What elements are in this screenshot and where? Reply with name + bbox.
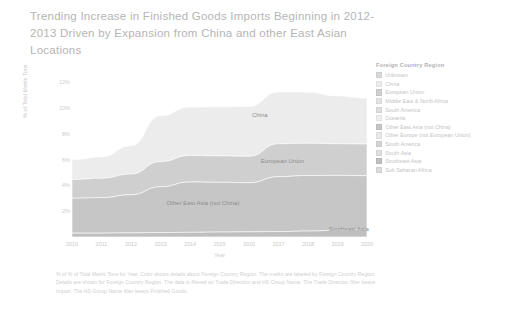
y-axis-tick-labels: 12%10%8%6%4%2% [44,82,70,237]
legend: Foreign Country Region UnknownChinaEurop… [376,62,512,174]
x-tick-label: 2011 [96,241,108,247]
legend-item-label: South Asia [385,150,411,156]
legend-swatch-icon [376,158,382,164]
x-tick-label: 2017 [272,241,284,247]
legend-swatch-icon [376,132,382,138]
y-tick-label: 12% [59,79,70,85]
legend-item-label: Middle East & North Africa [385,98,448,104]
legend-item[interactable]: European Union [376,88,512,97]
plot-area: ChinaEuropean UnionOther East Asia (not … [72,82,367,237]
y-tick-label: 2% [62,208,70,214]
y-axis-title: % of Total Metric Tons [22,64,28,118]
legend-item-label: Oceania [385,115,405,121]
x-tick-label: 2018 [302,241,314,247]
legend-item[interactable]: Middle East & North Africa [376,97,512,106]
chart-page: Trending Increase in Finished Goods Impo… [0,0,517,331]
x-axis-tick-labels: 2010201120122013201420152016201720182019… [72,241,367,251]
legend-item[interactable]: South America [376,105,512,114]
x-tick-label: 2010 [66,241,78,247]
legend-swatch-icon [376,89,382,95]
legend-item-label: South America [385,107,420,113]
legend-swatch-icon [376,98,382,104]
legend-title: Foreign Country Region [376,62,512,68]
legend-item-label: European Union [385,89,424,95]
x-tick-label: 2014 [184,241,196,247]
legend-item-list: UnknownChinaEuropean UnionMiddle East & … [376,71,512,174]
legend-item[interactable]: Oceania [376,114,512,123]
footer-caption: % of % of Total Metric Tons for Year. Co… [56,270,386,295]
legend-swatch-icon [376,141,382,147]
x-tick-label: 2020 [361,241,373,247]
area-label-other-east-asia-not-china: Other East Asia (not China) [166,200,239,206]
page-title: Trending Increase in Finished Goods Impo… [30,8,390,59]
y-tick-label: 8% [62,131,70,137]
x-tick-label: 2015 [213,241,225,247]
x-tick-label: 2013 [154,241,166,247]
legend-item[interactable]: Other Europe (not European Union) [376,131,512,140]
legend-item[interactable]: Sub Saharan Africa [376,166,512,175]
legend-item[interactable]: Unknown [376,71,512,80]
x-tick-label: 2012 [125,241,137,247]
legend-swatch-icon [376,167,382,173]
legend-item-label: Other Europe (not European Union) [385,132,470,138]
legend-swatch-icon [376,115,382,121]
legend-item[interactable]: Southeast Asia [376,157,512,166]
y-tick-label: 10% [59,105,70,111]
y-tick-label: 4% [62,182,70,188]
legend-swatch-icon [376,150,382,156]
x-axis-title: Year [72,252,367,258]
legend-item-label: Sub Saharan Africa [385,167,431,173]
area-label-china: China [252,112,268,118]
legend-swatch-icon [376,107,382,113]
legend-item-label: Southeast Asia [385,158,421,164]
legend-item-label: China [385,81,399,87]
stacked-area-chart [72,82,367,237]
area-label-southeast-asia: Southeast Asia [329,226,369,232]
legend-item-label: Unknown [385,72,407,78]
x-tick-label: 2019 [331,241,343,247]
legend-swatch-icon [376,72,382,78]
legend-item-label: Other East Asia (not China) [385,124,451,130]
legend-item[interactable]: China [376,80,512,89]
legend-item[interactable]: South Asia [376,148,512,157]
legend-item[interactable]: South America [376,140,512,149]
area-label-european-union: European Union [261,158,304,164]
x-tick-label: 2016 [243,241,255,247]
legend-item[interactable]: Other East Asia (not China) [376,123,512,132]
legend-swatch-icon [376,81,382,87]
y-tick-label: 6% [62,157,70,163]
legend-swatch-icon [376,124,382,130]
legend-item-label: South America [385,141,420,147]
